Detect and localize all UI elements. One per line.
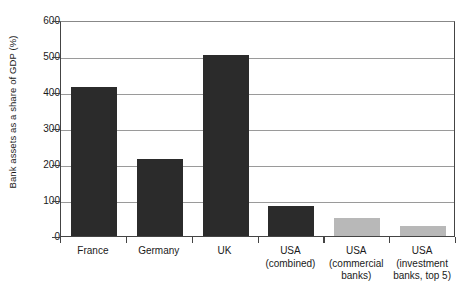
x-tick-label-line: (combined) bbox=[258, 258, 324, 271]
gridline bbox=[61, 202, 454, 203]
x-tick-mark bbox=[258, 237, 259, 243]
x-tick-label-line: banks) bbox=[323, 270, 389, 283]
gridline bbox=[61, 58, 454, 59]
x-tick-label: France bbox=[60, 245, 126, 258]
x-tick-label-line: USA bbox=[323, 245, 389, 258]
y-tick-mark bbox=[52, 21, 60, 22]
bar bbox=[268, 206, 314, 236]
x-tick-mark bbox=[389, 237, 390, 243]
plot-area bbox=[60, 21, 455, 237]
y-tick-mark bbox=[52, 201, 60, 202]
bar bbox=[334, 218, 380, 236]
y-axis-ticks: 0100200300400500600 bbox=[0, 0, 60, 297]
x-tick-label: Germany bbox=[126, 245, 192, 258]
x-tick-mark bbox=[60, 237, 61, 243]
x-tick-label-line: UK bbox=[192, 245, 258, 258]
x-tick-label-line: France bbox=[60, 245, 126, 258]
x-tick-label-line: Germany bbox=[126, 245, 192, 258]
gridline bbox=[61, 130, 454, 131]
x-tick-label-line: banks, top 5) bbox=[389, 270, 455, 283]
bar bbox=[203, 55, 249, 236]
y-tick-mark bbox=[52, 93, 60, 94]
x-tick-label-line: (investment bbox=[389, 258, 455, 271]
x-tick-label-line: USA bbox=[389, 245, 455, 258]
x-tick-label-line: (commercial bbox=[323, 258, 389, 271]
y-tick-mark bbox=[52, 129, 60, 130]
x-tick-mark bbox=[323, 237, 324, 243]
gridline bbox=[61, 166, 454, 167]
x-tick-label: UK bbox=[192, 245, 258, 258]
x-tick-label: USA(investmentbanks, top 5) bbox=[389, 245, 455, 283]
bar bbox=[400, 226, 446, 236]
bar bbox=[71, 87, 117, 236]
bar-chart: Bank assets as a share of GDP (%) 010020… bbox=[0, 0, 474, 297]
x-tick-mark bbox=[192, 237, 193, 243]
x-tick-label-line: USA bbox=[258, 245, 324, 258]
gridline bbox=[61, 94, 454, 95]
x-tick-mark bbox=[455, 237, 456, 243]
y-tick-mark bbox=[52, 165, 60, 166]
bar bbox=[137, 159, 183, 236]
x-tick-mark bbox=[126, 237, 127, 243]
y-tick-mark bbox=[52, 57, 60, 58]
x-tick-label: USA(commercialbanks) bbox=[323, 245, 389, 283]
y-tick-mark bbox=[52, 237, 60, 238]
x-tick-label: USA(combined) bbox=[258, 245, 324, 270]
